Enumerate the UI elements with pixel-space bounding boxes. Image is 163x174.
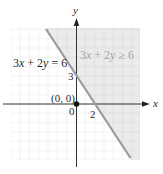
y-axis-arrow-icon [74, 18, 79, 26]
ineq-rhs: ≥ 6 [115, 48, 134, 62]
x-axis-arrow-icon [142, 101, 150, 106]
test-point-label: (0, 0) [51, 93, 75, 104]
inequality-label: 3x + 2y ≥ 6 [80, 49, 134, 61]
ineq-mid: + 2 [91, 48, 110, 62]
y-axis-label: y [73, 5, 78, 16]
y-intercept-label: 3 [68, 71, 74, 82]
equation-label: 3x + 2y = 6 [13, 57, 67, 69]
inequality-graph [0, 0, 163, 174]
x-axis-label: x [153, 98, 158, 109]
origin-label: 0 [69, 106, 75, 117]
x-intercept-label: 2 [90, 109, 96, 120]
eq-rhs: = 6 [48, 56, 67, 70]
eq-mid: + 2 [24, 56, 43, 70]
